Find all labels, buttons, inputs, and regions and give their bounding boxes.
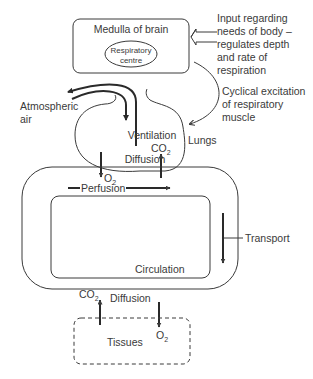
tissue-co2-label: CO2: [79, 288, 99, 302]
atmospheric-air-label: Atmospheric air: [20, 100, 78, 125]
medulla-title: Medulla of brain: [94, 23, 169, 35]
svg-text:and rate of: and rate of: [217, 51, 267, 63]
input-note: Input regarding needs of body – regulate…: [217, 12, 292, 76]
respiration-diagram: Medulla of brain Respiratory centre Inpu…: [0, 0, 313, 379]
ventilation-label: Ventilation: [128, 129, 177, 141]
medulla-box: Medulla of brain Respiratory centre: [73, 19, 189, 73]
inspiration-arrow-icon: [72, 91, 126, 120]
svg-text:Cyclical excitation: Cyclical excitation: [222, 85, 306, 97]
input-arrow-icon: [191, 29, 217, 45]
respiratory-centre-line1: Respiratory: [111, 46, 152, 55]
svg-text:air: air: [20, 113, 32, 125]
lung-diffusion-label: Diffusion: [125, 153, 166, 165]
excitation-note: Cyclical excitation of respiratory muscl…: [222, 85, 306, 123]
svg-text:respiration: respiration: [217, 64, 266, 76]
svg-text:Atmospheric: Atmospheric: [20, 100, 78, 112]
svg-text:needs of body –: needs of body –: [217, 25, 292, 37]
perfusion-label: Perfusion: [81, 182, 126, 194]
tissues-label: Tissues: [107, 336, 143, 348]
svg-text:Input regarding: Input regarding: [217, 12, 288, 24]
tissue-o2-label: O2: [156, 329, 168, 343]
circulation-outer-loop: [22, 167, 238, 289]
circulation-label: Circulation: [135, 263, 185, 275]
svg-text:muscle: muscle: [222, 111, 255, 123]
circulation-inner-loop: [51, 196, 210, 278]
tissue-diffusion-label: Diffusion: [110, 292, 151, 304]
lungs-label: Lungs: [188, 134, 217, 146]
excitation-arrow-icon: [190, 62, 219, 124]
respiratory-centre-line2: centre: [120, 56, 143, 65]
lungs-shape: Ventilation Lungs Diffusion: [75, 89, 217, 171]
lung-co2-label: CO2: [151, 142, 171, 156]
transport-label: Transport: [245, 232, 290, 244]
svg-text:regulates depth: regulates depth: [217, 38, 290, 50]
svg-text:of respiratory: of respiratory: [222, 98, 284, 110]
